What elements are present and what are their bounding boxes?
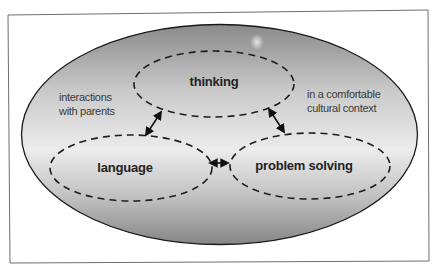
diagram-canvas: interactions with parents in a comfortab…	[0, 0, 434, 269]
context-ellipse	[22, 25, 418, 245]
annotation-right-line2: cultural context	[307, 102, 376, 114]
scan-smudge	[250, 34, 264, 50]
node-thinking-label: thinking	[190, 74, 239, 89]
annotation-left-line2: with parents	[58, 105, 116, 117]
annotation-left-line1: interactions	[59, 91, 112, 103]
node-language-label: language	[97, 160, 152, 175]
node-problem-solving-label: problem solving	[255, 158, 353, 173]
annotation-right-line1: in a comfortable	[307, 88, 381, 100]
